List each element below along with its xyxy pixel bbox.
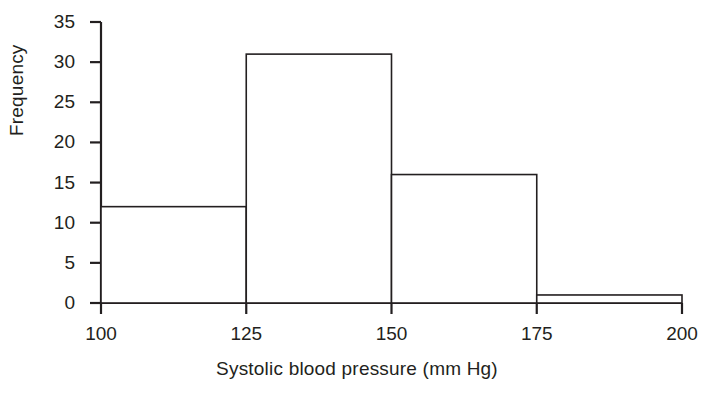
histogram-bar	[392, 175, 537, 303]
x-axis-tick-label: 125	[216, 324, 276, 343]
x-axis-tick-marks	[101, 303, 682, 314]
y-axis-tick-label: 10	[33, 213, 75, 232]
histogram-chart: Frequency 05101520253035 100125150175200…	[0, 0, 714, 402]
y-axis-tick-marks	[90, 22, 101, 303]
y-axis-tick-label: 30	[33, 52, 75, 71]
y-axis-tick-label: 15	[33, 173, 75, 192]
x-axis-tick-label: 100	[71, 324, 131, 343]
histogram-bars	[101, 54, 682, 303]
y-axis-tick-label: 25	[33, 92, 75, 111]
x-axis-tick-label: 200	[652, 324, 712, 343]
y-axis-tick-label: 35	[33, 12, 75, 31]
y-axis-tick-label: 5	[33, 253, 75, 272]
y-axis-tick-label: 0	[33, 293, 75, 312]
x-axis-title: Systolic blood pressure (mm Hg)	[0, 358, 714, 380]
histogram-bar	[101, 207, 246, 303]
x-axis-tick-label: 175	[507, 324, 567, 343]
histogram-bar	[246, 54, 391, 303]
y-axis-tick-label: 20	[33, 132, 75, 151]
histogram-bar	[537, 295, 682, 303]
x-axis-tick-label: 150	[362, 324, 422, 343]
